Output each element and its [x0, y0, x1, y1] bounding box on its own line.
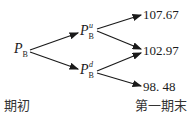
end-label: 第一期末: [135, 99, 187, 113]
edge-down-mid: [97, 53, 141, 71]
edge-down-low: [97, 73, 141, 86]
root-node: PB: [14, 42, 28, 58]
edge-root-down: [30, 52, 78, 69]
leaf-high: 107.67: [143, 8, 179, 22]
leaf-mid: 102.97: [143, 44, 179, 58]
leaf-low: 98. 48: [143, 80, 176, 94]
edge-up-mid: [97, 31, 141, 49]
down-node: PdB: [80, 63, 94, 79]
up-node: PuB: [80, 24, 94, 40]
edge-up-high: [97, 15, 141, 29]
start-label: 期初: [4, 99, 30, 113]
edge-root-up: [30, 33, 78, 50]
